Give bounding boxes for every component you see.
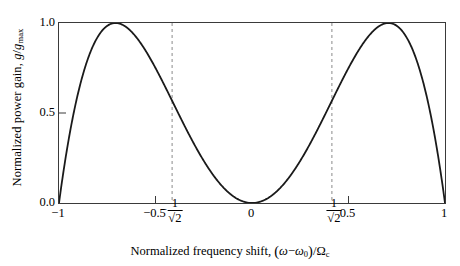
x-tick-label-1: 1 bbox=[441, 207, 447, 220]
x-tick-label-minus-0point5: −0.5 bbox=[143, 207, 166, 220]
fraction-denominator-right: √2 bbox=[326, 212, 341, 225]
y-axis-slash: / bbox=[11, 50, 25, 54]
chart-figure: Normalized power gain, g/gmax 1.0 0.5 0.… bbox=[0, 0, 460, 266]
y-tick-label-0point5: 0.5 bbox=[29, 106, 55, 119]
x-axis-capital-omega: Ω bbox=[316, 244, 325, 258]
y-axis-symbol-numerator: g bbox=[11, 53, 25, 59]
x-axis-tick-labels: −1 −1√2 −0.5 0 0.5 1√2 1 bbox=[58, 205, 444, 247]
x-axis-capital-omega-subscript: c bbox=[326, 249, 330, 259]
y-tick-label-1: 1.0 bbox=[29, 16, 55, 29]
plot-area bbox=[58, 22, 446, 204]
x-tick-fraction-right: 1√2 bbox=[326, 197, 341, 225]
x-axis-minus: − bbox=[288, 244, 295, 258]
y-axis-label: Normalized power gain, g/gmax bbox=[11, 29, 26, 187]
gain-curve bbox=[59, 23, 445, 203]
x-axis-label-prefix: Normalized frequency shift, bbox=[131, 244, 275, 258]
fraction-denominator-left: √2 bbox=[167, 212, 182, 225]
x-tick-fraction-left: 1√2 bbox=[167, 197, 182, 225]
x-axis-omega-zero: ω bbox=[295, 244, 304, 258]
y-axis-symbol-denominator: g bbox=[11, 44, 25, 50]
fraction-numerator-right: 1 bbox=[326, 197, 341, 210]
x-tick-label-minus-1: −1 bbox=[51, 207, 64, 220]
x-tick-label-0: 0 bbox=[248, 207, 254, 220]
x-tick-label-1-over-sqrt2: 1√2 bbox=[326, 197, 341, 225]
x-axis-omega: ω bbox=[279, 244, 288, 258]
y-axis-label-prefix: Normalized power gain, bbox=[11, 60, 25, 187]
y-axis-tick-labels: 1.0 0.5 0.0 bbox=[27, 0, 55, 266]
fraction-numerator-left: 1 bbox=[167, 197, 182, 210]
x-axis-label: Normalized frequency shift, (ω−ω0)/Ωc bbox=[0, 243, 460, 260]
x-tick-marks bbox=[156, 196, 349, 203]
y-axis-denominator-subscript: max bbox=[15, 29, 25, 44]
plot-svg bbox=[59, 23, 445, 203]
x-tick-label-0point5: 0.5 bbox=[340, 207, 356, 220]
